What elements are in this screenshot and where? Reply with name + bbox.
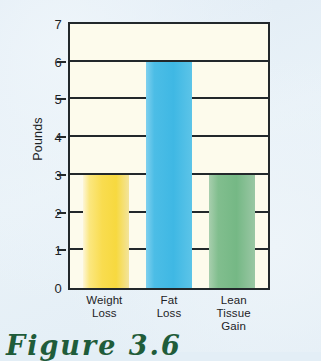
bar-weight-loss xyxy=(83,175,129,288)
x-label-line: Weight xyxy=(73,294,135,307)
x-label-fat-loss: FatLoss xyxy=(138,294,200,333)
figure-caption: Figure 3.6 xyxy=(6,330,182,361)
x-label-line: Gain xyxy=(203,320,265,333)
bar-series xyxy=(70,24,268,288)
x-axis-labels: WeightLossFatLossLean TissueGain xyxy=(68,294,270,333)
y-tick-mark xyxy=(57,249,66,251)
y-tick-label: 0 xyxy=(55,282,62,295)
y-tick-label: 7 xyxy=(55,18,62,31)
x-label-weight-loss: WeightLoss xyxy=(73,294,135,333)
y-tick-mark xyxy=(57,174,66,176)
y-tick-mark xyxy=(57,212,66,214)
chart-plot-area xyxy=(68,22,270,290)
x-label-line: Loss xyxy=(138,307,200,320)
bar-fat-loss xyxy=(146,62,192,288)
x-label-line: Loss xyxy=(73,307,135,320)
x-label-lean-tissue-gain: Lean TissueGain xyxy=(203,294,265,333)
x-label-line: Fat xyxy=(138,294,200,307)
y-tick-mark xyxy=(57,98,66,100)
y-axis: 76543210 xyxy=(40,22,66,290)
y-tick-mark xyxy=(57,61,66,63)
bar-lean-tissue-gain xyxy=(209,175,255,288)
x-label-line: Lean Tissue xyxy=(203,294,265,320)
y-tick-mark xyxy=(57,136,66,138)
